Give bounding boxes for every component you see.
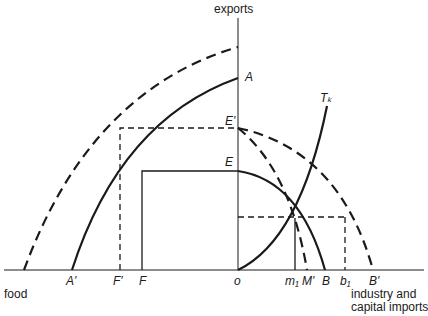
- E-rectangle: [142, 171, 238, 270]
- label-origin: o: [234, 275, 241, 287]
- y-axis-label: exports: [214, 3, 253, 16]
- E-prime-rectangle: [120, 128, 238, 270]
- label-Tk: Tₖ: [320, 92, 332, 104]
- label-M-prime: M': [302, 275, 314, 287]
- outer-frontier-left-dashed: [24, 47, 238, 270]
- curve-E-prime-B-prime: [238, 128, 373, 270]
- label-m1: m₁: [285, 275, 299, 287]
- label-E: E: [225, 156, 233, 168]
- curve-E-prime-M-prime: [238, 128, 307, 270]
- x-axis-right-label-line1: industry and: [351, 288, 416, 301]
- x-axis-right-label-line2: capital imports: [351, 301, 428, 314]
- x-axis-left-label: food: [4, 288, 27, 301]
- label-B-prime: B': [369, 275, 379, 287]
- label-F: F: [139, 275, 146, 287]
- label-F-prime: F': [113, 275, 123, 287]
- label-B: B: [322, 275, 330, 287]
- label-E-prime: E': [225, 115, 235, 127]
- curve-Tk: [238, 106, 327, 270]
- label-A-prime: A': [66, 275, 76, 287]
- label-b1: b₁: [340, 275, 350, 287]
- label-A: A: [245, 71, 253, 83]
- frontier-A-prime-A: [72, 78, 238, 270]
